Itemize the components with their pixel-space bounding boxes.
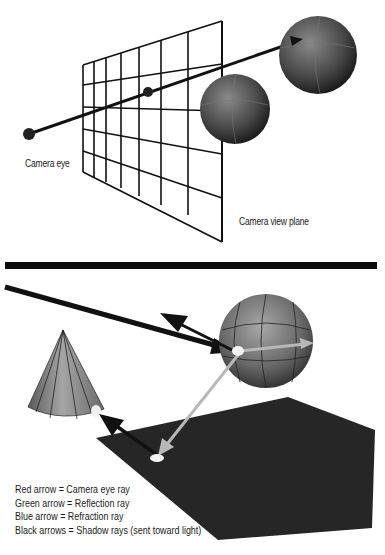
plane-intersection-dot bbox=[143, 87, 153, 97]
cone-hit-spot bbox=[91, 405, 101, 417]
ray-tracing-diagram bbox=[0, 0, 385, 555]
legend: Red arrow = Camera eye ray Green arrow =… bbox=[15, 483, 201, 537]
sphere-hit-spot bbox=[232, 346, 244, 356]
legend-item: Green arrow = Reflection ray bbox=[15, 497, 201, 511]
panel-divider bbox=[5, 262, 377, 269]
far-sphere bbox=[279, 16, 357, 94]
plane-hit-spot bbox=[150, 454, 164, 462]
legend-item: Black arrows = Shadow rays (sent toward … bbox=[15, 524, 201, 538]
view-plane-grid bbox=[83, 21, 222, 242]
cone bbox=[28, 330, 104, 419]
camera-eye-label: Camera eye bbox=[25, 158, 70, 169]
camera-eye-dot bbox=[23, 128, 35, 140]
view-plane-label: Camera view plane bbox=[239, 216, 309, 227]
scene-sphere bbox=[219, 294, 313, 388]
eye-ray bbox=[5, 287, 232, 350]
legend-item: Blue arrow = Refraction ray bbox=[15, 510, 201, 524]
near-sphere bbox=[200, 74, 270, 144]
legend-item: Red arrow = Camera eye ray bbox=[15, 483, 201, 497]
